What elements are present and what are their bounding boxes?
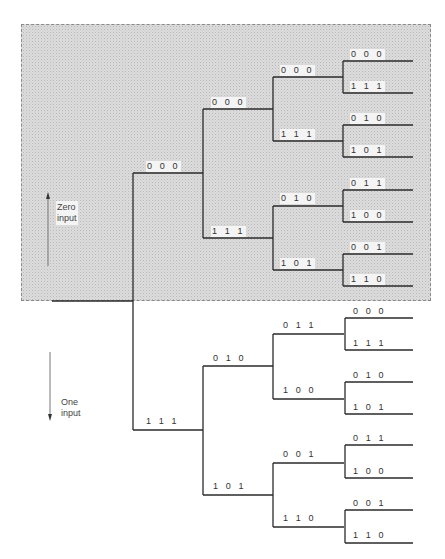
branch-label-l4: 0 1 0	[350, 113, 385, 124]
branch-label-l3: 0 0 0	[280, 65, 315, 76]
branch-label-l1-lower: 1 1 1	[145, 416, 180, 427]
branch-label-l4: 1 0 1	[352, 402, 387, 413]
branch-label-l2: 1 1 1	[211, 226, 246, 237]
branch-label-l4: 0 1 0	[352, 370, 387, 381]
branch-label-l4: 1 1 0	[350, 274, 385, 285]
branch-label-l1-upper: 0 0 0	[146, 161, 181, 172]
one-input-label: One input	[61, 397, 81, 419]
branch-label-l3: 1 1 0	[282, 513, 317, 524]
branch-label-l4: 1 1 1	[350, 81, 385, 92]
branch-label-l4: 1 0 0	[350, 210, 385, 221]
zero-input-label: Zero input	[56, 201, 78, 225]
branch-label-l4: 1 1 1	[352, 338, 387, 349]
branch-label-l4: 0 1 1	[352, 433, 387, 444]
branch-label-l4: 0 1 1	[350, 178, 385, 189]
branch-label-l3: 1 0 0	[282, 385, 317, 396]
branch-label-l2: 1 0 1	[212, 481, 247, 492]
code-tree-diagram: Zero input One input 0 0 0 1 1 1 0 0 0 1…	[0, 0, 445, 559]
branch-label-l4: 0 0 1	[352, 498, 387, 509]
branch-label-l4: 1 1 0	[352, 530, 387, 541]
branch-label-l4: 0 0 0	[352, 306, 387, 317]
branch-label-l2: 0 0 0	[211, 97, 246, 108]
branch-label-l3: 1 1 1	[280, 129, 315, 140]
branch-label-l4: 1 0 0	[352, 466, 387, 477]
branch-label-l3: 1 0 1	[280, 258, 315, 269]
branch-label-l3: 0 1 1	[282, 320, 317, 331]
branch-label-l3: 0 0 1	[282, 449, 317, 460]
branch-label-l4: 0 0 1	[350, 242, 385, 253]
branch-label-l4: 0 0 0	[350, 49, 385, 60]
branch-label-l4: 1 0 1	[350, 145, 385, 156]
branch-label-l3: 0 1 0	[280, 193, 315, 204]
branch-label-l2: 0 1 0	[212, 353, 247, 364]
